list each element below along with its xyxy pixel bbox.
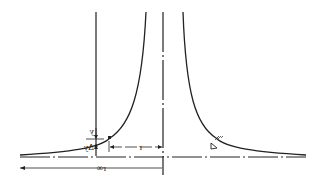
r-arrow-left-icon (110, 145, 114, 149)
label-y: y (89, 126, 94, 136)
curve-point (108, 136, 111, 139)
water-surface-icon (211, 143, 217, 149)
water-surface-hatch (221, 136, 223, 138)
r-inf-arrow-icon (20, 166, 25, 170)
label-delta-y: Δy (83, 142, 94, 152)
label-r: r (139, 142, 142, 152)
label-r-inf: r∞ (97, 163, 106, 173)
drawdown-curve-left (20, 12, 146, 155)
drawdown-diagram: y Δy r r∞ (0, 0, 321, 184)
drawdown-curve-right (183, 12, 306, 155)
r-arrow-right-icon (158, 145, 162, 149)
